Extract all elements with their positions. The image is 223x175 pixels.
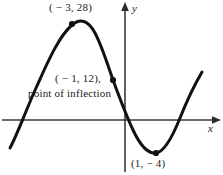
point-marker-inflection	[110, 77, 116, 83]
point-marker-maximum	[69, 21, 75, 27]
label-local-minimum: (1, − 4)	[131, 157, 165, 169]
x-axis-label: x	[208, 122, 213, 134]
label-local-maximum: ( − 3, 28)	[49, 1, 92, 13]
y-axis-label: y	[132, 2, 137, 14]
label-inflection-text: point of inflection	[28, 87, 111, 99]
graph-figure: ( − 3, 28) ( − 1, 12), point of inflecti…	[0, 0, 223, 175]
x-axis-arrowhead	[212, 116, 221, 124]
label-inflection-coords: ( − 1, 12),	[55, 72, 101, 84]
y-axis-arrowhead	[121, 2, 129, 11]
point-marker-minimum	[153, 150, 159, 156]
